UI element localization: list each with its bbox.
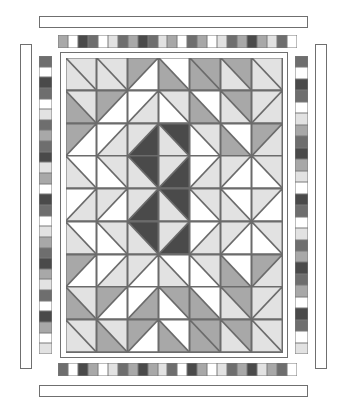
checker-square xyxy=(158,363,168,376)
checker-square xyxy=(39,162,52,173)
quilt-cell xyxy=(221,222,252,255)
quilt-cell xyxy=(252,124,283,157)
quilt-cell xyxy=(252,222,283,255)
quilt-cell xyxy=(252,255,283,288)
checker-square xyxy=(88,35,98,48)
checker-square xyxy=(295,274,308,285)
checker-square xyxy=(187,35,197,48)
checker-square xyxy=(39,333,52,344)
checker-square xyxy=(295,171,308,182)
checker-square xyxy=(39,99,52,110)
checker-square xyxy=(217,363,227,376)
checker-square xyxy=(217,35,227,48)
quilt-cell xyxy=(66,91,97,124)
quilt-block-grid xyxy=(66,58,283,353)
checker-square xyxy=(88,363,98,376)
checker-square xyxy=(98,363,108,376)
checker-square xyxy=(197,363,207,376)
checker-square xyxy=(257,35,267,48)
quilt-cell xyxy=(97,189,128,222)
quilt-cell xyxy=(190,91,221,124)
left-outer-plain-border xyxy=(20,44,32,369)
right-checkered-border xyxy=(295,56,308,354)
checker-square xyxy=(177,363,187,376)
checker-square xyxy=(295,217,308,228)
quilt-cell xyxy=(66,124,97,157)
quilt-cell xyxy=(221,320,252,353)
checker-square xyxy=(295,343,308,354)
checker-square xyxy=(295,159,308,170)
checker-square xyxy=(128,35,138,48)
quilt-cell xyxy=(159,189,190,222)
checker-square xyxy=(39,184,52,195)
quilt-cell xyxy=(190,156,221,189)
quilt-cell xyxy=(128,91,159,124)
checker-square xyxy=(247,363,257,376)
checker-square xyxy=(39,258,52,269)
checker-square xyxy=(295,102,308,113)
checker-square xyxy=(295,308,308,319)
quilt-cell xyxy=(190,320,221,353)
checker-square xyxy=(295,79,308,90)
quilt-cell xyxy=(97,287,128,320)
checker-square xyxy=(267,363,277,376)
checker-square xyxy=(39,343,52,354)
quilt-cell xyxy=(159,320,190,353)
checker-square xyxy=(39,67,52,78)
checker-square xyxy=(68,363,78,376)
checker-square xyxy=(295,262,308,273)
quilt-cell xyxy=(221,189,252,222)
checker-square xyxy=(295,285,308,296)
checker-square xyxy=(39,120,52,131)
checker-square xyxy=(295,297,308,308)
quilt-cell xyxy=(97,222,128,255)
checker-square xyxy=(58,35,68,48)
checker-square xyxy=(227,363,237,376)
quilt-cell xyxy=(128,124,159,157)
quilt-cell xyxy=(221,91,252,124)
checker-square xyxy=(148,35,158,48)
checker-square xyxy=(207,35,217,48)
checker-square xyxy=(287,35,297,48)
checker-square xyxy=(39,194,52,205)
quilt-cell xyxy=(66,156,97,189)
quilt-cell xyxy=(97,320,128,353)
quilt-cell xyxy=(128,58,159,91)
quilt-cell xyxy=(66,287,97,320)
quilt-cell xyxy=(221,124,252,157)
checker-square xyxy=(108,35,118,48)
quilt-cell xyxy=(128,156,159,189)
checker-square xyxy=(39,152,52,163)
quilt-cell xyxy=(221,156,252,189)
checker-square xyxy=(39,141,52,152)
checker-square xyxy=(237,363,247,376)
quilt-cell xyxy=(128,287,159,320)
quilt-cell xyxy=(128,255,159,288)
checker-square xyxy=(167,363,177,376)
left-checkered-border xyxy=(39,56,52,354)
checker-square xyxy=(39,130,52,141)
top-checkered-border xyxy=(58,35,297,48)
quilt-cell xyxy=(159,124,190,157)
quilt-cell xyxy=(66,255,97,288)
quilt-cell xyxy=(252,320,283,353)
checker-square xyxy=(295,228,308,239)
quilt-cell xyxy=(221,287,252,320)
checker-square xyxy=(158,35,168,48)
quilt-cell xyxy=(97,156,128,189)
quilt-cell xyxy=(66,189,97,222)
quilt-cell xyxy=(66,320,97,353)
right-outer-plain-border xyxy=(315,44,327,369)
checker-square xyxy=(78,363,88,376)
checker-square xyxy=(295,113,308,124)
checker-square xyxy=(277,363,287,376)
checker-square xyxy=(295,251,308,262)
quilt-cell xyxy=(252,58,283,91)
quilt-cell xyxy=(159,287,190,320)
top-outer-plain-border xyxy=(39,16,308,28)
quilt-cell xyxy=(190,222,221,255)
checker-square xyxy=(39,77,52,88)
quilt-cell xyxy=(190,58,221,91)
checker-square xyxy=(108,363,118,376)
checker-square xyxy=(128,363,138,376)
